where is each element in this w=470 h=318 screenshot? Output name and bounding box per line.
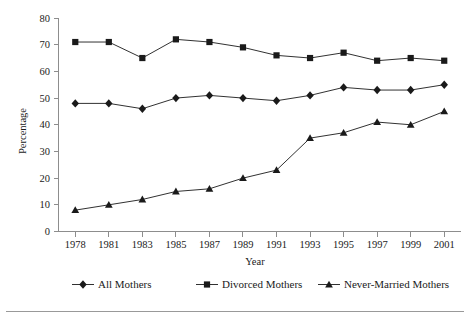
- x-tick-label-1989: 1989: [232, 239, 253, 250]
- y-tick-label-0: 0: [45, 226, 50, 237]
- x-tick-label-1993: 1993: [300, 239, 321, 250]
- data-point-1999-65: [408, 55, 414, 61]
- legend-item-divorced-mothers[interactable]: Divorced Mothers: [196, 278, 302, 290]
- x-tick-label-1991: 1991: [266, 239, 287, 250]
- x-tick-label-1985: 1985: [165, 239, 186, 250]
- chart-figure: 01020304050607080 1978198119831985198719…: [0, 0, 470, 318]
- series-line: [75, 111, 444, 210]
- data-point-1991-66: [273, 52, 279, 58]
- x-tick-label-1987: 1987: [199, 239, 220, 250]
- series-line: [75, 85, 444, 109]
- data-point-2001-45: [440, 108, 448, 115]
- x-tick-label-1978: 1978: [65, 239, 86, 250]
- data-point-1983-46: [139, 105, 146, 113]
- y-axis-tick-labels: 01020304050607080: [40, 13, 51, 238]
- data-point-1985-50: [172, 94, 179, 102]
- data-point-1993-65: [307, 55, 313, 61]
- x-tick-label-1997: 1997: [367, 239, 388, 250]
- data-point-1999-53: [407, 86, 414, 94]
- data-point-2001-55: [441, 81, 448, 89]
- data-point-1997-41: [373, 118, 381, 125]
- data-point-1983-65: [139, 55, 145, 61]
- legend-item-all-mothers[interactable]: All Mothers: [72, 278, 151, 290]
- y-tick-label-60: 60: [40, 66, 51, 77]
- legend-label: All Mothers: [98, 278, 151, 290]
- y-axis-ticks: [54, 18, 59, 232]
- legend-marker-diamond: [79, 280, 86, 288]
- data-point-1989-69: [240, 44, 246, 50]
- y-tick-label-30: 30: [40, 146, 51, 157]
- x-tick-label-2001: 2001: [434, 239, 455, 250]
- legend-marker-triangle: [325, 281, 333, 288]
- data-point-1981-71: [106, 39, 112, 45]
- data-point-1978-48: [72, 99, 79, 107]
- y-axis-title: Percentage: [17, 108, 28, 154]
- y-tick-label-20: 20: [40, 173, 51, 184]
- series-line: [75, 39, 444, 60]
- series-layer: [71, 36, 448, 213]
- data-point-1997-53: [373, 86, 380, 94]
- data-point-1993-51: [306, 91, 313, 99]
- data-point-1978-71: [72, 39, 78, 45]
- line-chart: 01020304050607080 1978198119831985198719…: [0, 0, 470, 318]
- data-point-1981-48: [105, 99, 112, 107]
- data-point-1987-71: [206, 39, 212, 45]
- data-point-1985-72: [173, 36, 179, 42]
- x-tick-label-1983: 1983: [132, 239, 153, 250]
- chart-legend: All MothersDivorced MothersNever-Married…: [72, 278, 449, 290]
- legend-label: Never-Married Mothers: [344, 278, 449, 290]
- series-divorced-mothers: [72, 36, 447, 64]
- data-point-1997-64: [374, 58, 380, 64]
- legend-marker-square: [204, 281, 210, 287]
- data-point-2001-64: [441, 58, 447, 64]
- y-tick-label-40: 40: [40, 119, 51, 130]
- x-tick-label-1999: 1999: [400, 239, 421, 250]
- x-axis-ticks: [75, 232, 444, 237]
- y-tick-label-10: 10: [40, 199, 51, 210]
- series-all-mothers: [72, 81, 448, 113]
- legend-label: Divorced Mothers: [222, 278, 302, 290]
- y-tick-label-50: 50: [40, 93, 51, 104]
- x-tick-label-1995: 1995: [333, 239, 354, 250]
- x-axis-tick-labels: 1978198119831985198719891991199319951997…: [65, 239, 455, 250]
- legend-item-never-married-mothers[interactable]: Never-Married Mothers: [318, 278, 449, 290]
- data-point-1991-49: [273, 97, 280, 105]
- y-tick-label-80: 80: [40, 13, 51, 24]
- data-point-1987-51: [206, 91, 213, 99]
- x-tick-label-1981: 1981: [98, 239, 119, 250]
- x-axis-title: Year: [245, 256, 265, 267]
- data-point-1995-67: [341, 50, 347, 56]
- series-never-married-mothers: [71, 108, 448, 214]
- data-point-1995-54: [340, 83, 347, 91]
- y-tick-label-70: 70: [40, 39, 51, 50]
- data-point-1989-50: [239, 94, 246, 102]
